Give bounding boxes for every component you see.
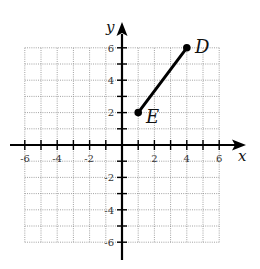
x-axis-label: x [238, 147, 247, 165]
point-e [134, 109, 142, 117]
y-tick-label: -4 [104, 205, 114, 216]
y-tick-label: 4 [108, 75, 114, 86]
y-tick-label: -2 [104, 172, 114, 183]
coordinate-plane: -6 -4 -2 2 4 6 6 4 2 -2 -4 -6 x y E D [0, 0, 260, 269]
point-e-label: E [145, 106, 159, 127]
y-tick-label: -6 [104, 237, 114, 248]
point-d-label: D [194, 36, 210, 57]
x-tick-label: -2 [84, 153, 94, 164]
x-tick-label: 4 [184, 153, 190, 164]
x-tick-label: -4 [52, 153, 62, 164]
y-axis-label: y [105, 18, 115, 36]
y-tick-label: 6 [108, 43, 114, 54]
x-tick-label: 2 [151, 153, 157, 164]
x-tick-label: -6 [20, 153, 30, 164]
y-tick-label: 2 [108, 107, 114, 118]
point-d [183, 44, 191, 52]
y-axis-arrow-icon [117, 22, 128, 36]
x-tick-label: 6 [216, 153, 222, 164]
